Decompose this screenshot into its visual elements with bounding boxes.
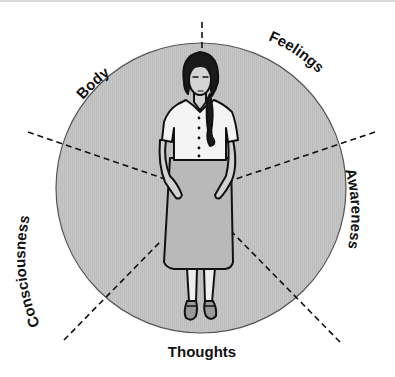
right-shoe [204, 301, 216, 319]
skirt [164, 158, 233, 269]
right-leg [204, 268, 215, 302]
segment-label-thoughts: Thoughts [168, 343, 236, 360]
left-shoe [185, 301, 197, 320]
left-leg [187, 268, 197, 302]
five-aspects-circle-diagram: Body Feelings Awareness Thoughts Conscio… [0, 0, 395, 377]
segment-label-awareness: Awareness [342, 166, 365, 250]
segment-label-consciousness: Consciousness [11, 214, 43, 331]
